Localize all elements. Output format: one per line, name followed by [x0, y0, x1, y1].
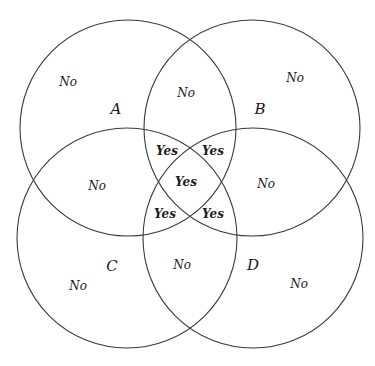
region-label: No [285, 71, 304, 85]
set-c-circle [17, 128, 237, 348]
set-label-a: A [109, 100, 122, 118]
region-label: Yes [202, 207, 224, 221]
region-labels: No No No No No No No No Yes Yes Yes Yes … [58, 71, 308, 293]
region-label: No [289, 277, 308, 291]
set-label-c: C [106, 257, 118, 275]
region-label: No [58, 75, 77, 89]
set-label-b: B [253, 100, 265, 118]
region-label: No [176, 86, 195, 100]
region-label: No [87, 179, 106, 193]
region-label: Yes [156, 144, 178, 158]
set-label-d: D [246, 256, 259, 274]
region-label: No [172, 258, 191, 272]
region-label: No [256, 177, 275, 191]
region-label: No [68, 279, 87, 293]
set-d-circle [143, 128, 363, 348]
venn-diagram: A B C D No No No No No No No No Yes Yes … [0, 0, 375, 366]
region-label: Yes [154, 207, 176, 221]
region-label: Yes [202, 144, 224, 158]
region-label: Yes [175, 175, 197, 189]
